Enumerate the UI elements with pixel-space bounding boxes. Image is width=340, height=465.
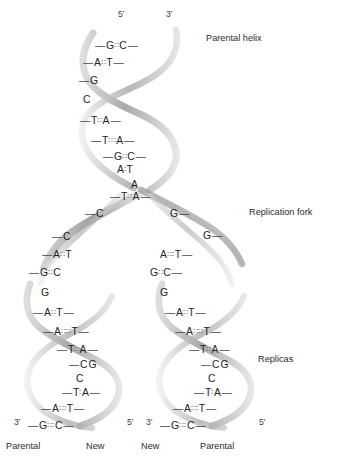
base-pair-row: — A∶∶∶T — — [41, 404, 84, 414]
hydrogen-bond: ∶∶ — [48, 268, 53, 277]
base-pair-row: — T∶A — — [62, 388, 100, 398]
base-right: A — [214, 387, 221, 398]
base-left: A — [53, 249, 60, 260]
base-pair-row: — C — [52, 232, 71, 242]
backbone-dash: — — [201, 359, 212, 370]
backbone-dash: — — [195, 307, 206, 318]
backbone-dash: — — [160, 420, 171, 431]
annotation-parental-helix: Parental helix — [206, 34, 262, 43]
hydrogen-bond: ∶∶ — [183, 308, 188, 317]
hydrogen-bond: ∶∶ — [74, 345, 79, 354]
backbone-dash: — — [52, 231, 63, 242]
foot-label-foot-parental-left: Parental — [6, 442, 40, 451]
base-pair-row: — T∶∶A — — [80, 116, 121, 126]
base-left: G — [170, 208, 178, 219]
backbone-dash: — — [41, 403, 52, 414]
base-right: C — [119, 40, 127, 51]
backbone-dash: — — [110, 115, 121, 126]
backbone-dash: — — [127, 40, 138, 51]
base-left: G — [203, 230, 211, 241]
backbone-dash: — — [205, 403, 216, 414]
hydrogen-bond: ∶∶ — [97, 116, 102, 125]
hydrogen-bond: ∶∶ — [158, 268, 163, 277]
base-right: A — [82, 387, 89, 398]
base-right: C — [163, 267, 171, 278]
base-pair-row: G — [41, 288, 49, 298]
hydrogen-bond: ∶∶∶∶ — [61, 327, 71, 336]
base-pair-row: — G∶∶∶C — — [28, 421, 74, 431]
hydrogen-bond: ∶∶ — [101, 58, 106, 67]
foot-label-foot-parental-right: Parental — [200, 442, 234, 451]
base-pair-row: G∶∶C — — [150, 268, 182, 278]
end-label-three-prime-left: 3′ — [14, 418, 20, 427]
base-left: A — [44, 307, 51, 318]
foot-label-foot-new-left: New — [86, 442, 104, 451]
base-pair-row: A — [131, 180, 138, 190]
backbone-dash: — — [210, 326, 221, 337]
hydrogen-bond: ∶∶∶ — [108, 136, 116, 145]
backbone-dash: — — [63, 307, 74, 318]
backbone-dash: — — [103, 151, 114, 162]
base-pair-row: — A∶∶T — [42, 250, 72, 260]
base-left: G — [150, 267, 158, 278]
base-left: C — [208, 373, 216, 384]
hydrogen-bond: ∶∶ — [60, 250, 65, 259]
hydrogen-bond: ∶ — [124, 165, 127, 174]
base-right: A — [212, 344, 219, 355]
base-pair-row: A∶∶∶T — — [160, 250, 192, 260]
base-left: G — [39, 420, 47, 431]
backbone-dash: — — [91, 135, 102, 146]
base-pair-row: — T∶A — — [194, 388, 232, 398]
base-pair-row: — A∶∶T — — [33, 308, 74, 318]
base-left: A — [52, 403, 59, 414]
base-left: A — [184, 403, 191, 414]
backbone-dash: — — [194, 420, 205, 431]
base-left: G — [114, 151, 122, 162]
hydrogen-bond: ∶∶ — [51, 308, 56, 317]
backbone-dash: — — [95, 40, 106, 51]
annotation-replication-fork: Replication fork — [249, 208, 312, 217]
base-pair-row: G — [160, 288, 168, 298]
annotation-replicas: Replicas — [258, 355, 293, 364]
backbone-dash: — — [178, 208, 189, 219]
hydrogen-bond: ∶∶∶ — [47, 421, 55, 430]
base-left: G — [90, 75, 98, 86]
backbone-dash: — — [73, 403, 84, 414]
base-left: G — [160, 287, 168, 298]
backbone-dash: — — [33, 307, 44, 318]
base-right: A — [133, 191, 140, 202]
hydrogen-bond: ∶∶∶ — [59, 404, 67, 413]
dna-replication-diagram: Parental helixReplication forkReplicas5′… — [0, 0, 340, 465]
base-left: A — [94, 57, 101, 68]
backbone-dash: — — [175, 326, 186, 337]
base-pair-row: — G — [79, 76, 98, 86]
base-right: A — [80, 344, 87, 355]
base-pair-row: G — — [170, 209, 189, 219]
backbone-dash: — — [28, 420, 39, 431]
backbone-dash: — — [43, 326, 54, 337]
base-left: G — [40, 267, 48, 278]
backbone-dash: — — [113, 57, 124, 68]
base-left: A — [131, 179, 138, 190]
backbone-dash: — — [57, 344, 68, 355]
backbone-dash: — — [89, 387, 100, 398]
base-right: C — [53, 267, 61, 278]
backbone-dash: — — [42, 249, 53, 260]
backbone-dash: — — [87, 344, 98, 355]
hydrogen-bond: ∶∶ — [127, 192, 132, 201]
hydrogen-bond: ∶∶∶ — [179, 421, 187, 430]
end-label-five-prime-right: 5′ — [259, 418, 265, 427]
base-pair-row: — A∶∶∶T — — [173, 404, 216, 414]
base-right: T — [65, 249, 71, 260]
backbone-dash: — — [189, 344, 200, 355]
backbone-dash: — — [29, 267, 40, 278]
hydrogen-bond: ∶∶ — [114, 41, 119, 50]
base-left: G — [171, 420, 179, 431]
base-pair-row: G — — [203, 231, 222, 241]
base-right: G — [220, 359, 229, 370]
hydrogen-bond: ∶∶∶ — [191, 404, 199, 413]
base-left: A — [186, 326, 193, 337]
hydrogen-bond: ∶ — [79, 388, 82, 397]
base-pair-row: — T∶∶A — — [57, 345, 98, 355]
end-label-five-prime-top: 5′ — [118, 10, 124, 19]
